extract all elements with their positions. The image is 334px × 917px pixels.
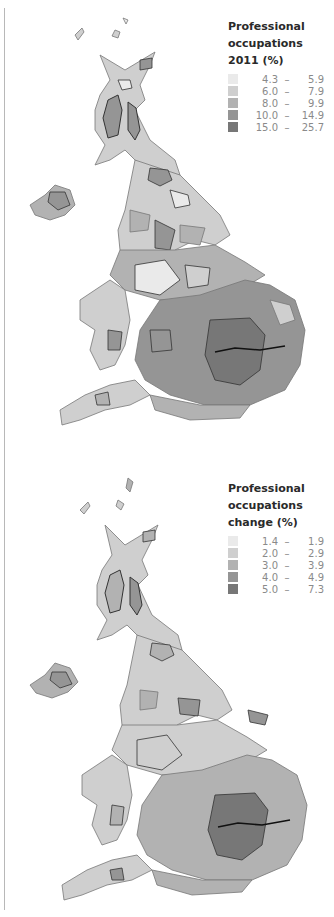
- class-low: 15.0: [248, 122, 278, 133]
- map-panel-change: Professional occupations change (%) 1.4 …: [0, 460, 334, 917]
- legend: Professional occupations change (%) 1.4 …: [228, 480, 332, 595]
- class-high: 14.9: [296, 110, 324, 121]
- class-high: 9.9: [296, 98, 324, 109]
- legend-swatch: [228, 86, 238, 96]
- legend-swatch: [228, 110, 238, 120]
- class-high: 1.9: [296, 536, 324, 547]
- class-high: 25.7: [296, 122, 324, 133]
- class-dash: –: [278, 86, 296, 97]
- class-low: 8.0: [248, 98, 278, 109]
- class-dash: –: [278, 560, 296, 571]
- class-dash: –: [278, 548, 296, 559]
- legend-class: 5.0 – 7.3: [228, 583, 332, 595]
- class-dash: –: [278, 572, 296, 583]
- legend-class: 15.0 – 25.7: [228, 121, 332, 133]
- class-dash: –: [278, 110, 296, 121]
- class-low: 5.0: [248, 584, 278, 595]
- legend-swatch: [228, 584, 238, 594]
- class-high: 4.9: [296, 572, 324, 583]
- class-high: 2.9: [296, 548, 324, 559]
- class-low: 2.0: [248, 548, 278, 559]
- legend-swatch: [228, 122, 238, 132]
- legend-swatch: [228, 548, 238, 558]
- class-low: 6.0: [248, 86, 278, 97]
- class-low: 10.0: [248, 110, 278, 121]
- class-dash: –: [278, 122, 296, 133]
- legend-class: 4.0 – 4.9: [228, 571, 332, 583]
- class-dash: –: [278, 98, 296, 109]
- legend-class: 4.3 – 5.9: [228, 73, 332, 85]
- legend-swatch: [228, 572, 238, 582]
- legend-class: 8.0 – 9.9: [228, 97, 332, 109]
- legend-swatch: [228, 74, 238, 84]
- legend-title-line: occupations: [228, 35, 332, 52]
- legend-class: 6.0 – 7.9: [228, 85, 332, 97]
- class-high: 7.3: [296, 584, 324, 595]
- legend-title-line: Professional: [228, 18, 332, 35]
- legend-title: Professional occupations 2011 (%): [228, 18, 332, 69]
- class-dash: –: [278, 536, 296, 547]
- legend-title: Professional occupations change (%): [228, 480, 332, 531]
- class-high: 3.9: [296, 560, 324, 571]
- class-low: 1.4: [248, 536, 278, 547]
- legend-class: 1.4 – 1.9: [228, 535, 332, 547]
- legend-swatch: [228, 536, 238, 546]
- legend-title-line: change (%): [228, 514, 332, 531]
- map-panel-2011: Professional occupations 2011 (%) 4.3 – …: [0, 0, 334, 458]
- legend-swatch: [228, 98, 238, 108]
- legend-swatch: [228, 560, 238, 570]
- legend-title-line: occupations: [228, 497, 332, 514]
- legend-class: 10.0 – 14.9: [228, 109, 332, 121]
- class-high: 7.9: [296, 86, 324, 97]
- class-low: 4.0: [248, 572, 278, 583]
- class-dash: –: [278, 584, 296, 595]
- legend-class: 2.0 – 2.9: [228, 547, 332, 559]
- class-low: 4.3: [248, 74, 278, 85]
- legend-class: 3.0 – 3.9: [228, 559, 332, 571]
- legend-title-line: Professional: [228, 480, 332, 497]
- class-low: 3.0: [248, 560, 278, 571]
- legend: Professional occupations 2011 (%) 4.3 – …: [228, 18, 332, 133]
- class-dash: –: [278, 74, 296, 85]
- class-high: 5.9: [296, 74, 324, 85]
- legend-title-line: 2011 (%): [228, 52, 332, 69]
